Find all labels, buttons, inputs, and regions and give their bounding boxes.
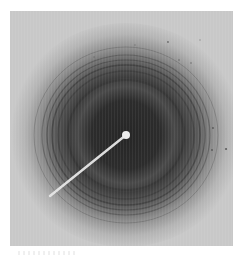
scan-artifact <box>18 251 78 255</box>
diffraction-pattern-graphic <box>10 11 233 246</box>
diffraction-photograph <box>10 11 233 246</box>
film-grain <box>10 11 233 246</box>
figure-canvas <box>0 0 245 261</box>
